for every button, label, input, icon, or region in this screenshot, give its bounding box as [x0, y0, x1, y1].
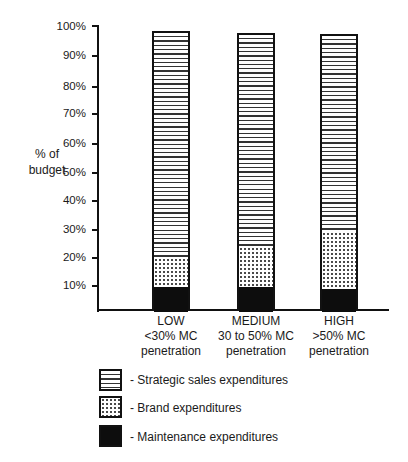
- legend-swatch-strategic: [99, 369, 122, 391]
- y-tick-40: 40%: [42, 194, 86, 206]
- bar-high-maintenance-segment: [322, 289, 356, 312]
- legend-label-maintenance: - Maintenance expenditures: [130, 430, 278, 444]
- y-tick-10: 10%: [42, 279, 86, 291]
- bar-medium: [237, 33, 275, 310]
- bar-low-brand-segment: [154, 258, 188, 287]
- bar-high-brand-segment: [322, 232, 356, 289]
- x-label-high: HIGH >50% MC penetration: [284, 314, 394, 359]
- x-label-high-line2: >50% MC: [284, 329, 394, 344]
- x-label-high-line1: HIGH: [284, 314, 394, 329]
- bar-low: [152, 31, 190, 310]
- y-tick-30: 30%: [42, 223, 86, 235]
- bar-low-strategic-segment: [154, 33, 188, 258]
- y-tick-90: 90%: [42, 49, 86, 61]
- bar-low-maintenance-segment: [154, 287, 188, 312]
- y-tick-20: 20%: [42, 251, 86, 263]
- legend-label-strategic: - Strategic sales expenditures: [130, 373, 288, 387]
- bar-medium-maintenance-segment: [239, 287, 273, 312]
- bar-high-strategic-segment: [322, 36, 356, 232]
- bar-high: [320, 34, 358, 310]
- y-tick-70: 70%: [42, 107, 86, 119]
- legend-swatch-maintenance: [99, 425, 122, 447]
- y-tick-80: 80%: [42, 80, 86, 92]
- legend-swatch-brand: [99, 396, 122, 418]
- x-label-high-line3: penetration: [284, 344, 394, 359]
- y-tick-60: 60%: [42, 137, 86, 149]
- y-tick-100: 100%: [42, 20, 86, 32]
- legend-label-brand: - Brand expenditures: [130, 401, 241, 415]
- y-axis-line: [97, 25, 99, 312]
- bar-medium-brand-segment: [239, 247, 273, 287]
- bar-medium-strategic-segment: [239, 35, 273, 247]
- y-tick-50: 50%: [42, 166, 86, 178]
